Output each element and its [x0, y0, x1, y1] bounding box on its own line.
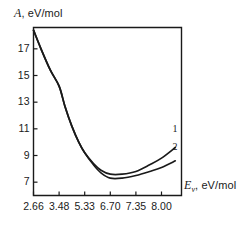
curve-label-2: 2 [173, 141, 178, 152]
y-axis-title: A, eV/mol [14, 6, 63, 21]
y-tick-label: 7 [8, 175, 30, 187]
x-axis-units: , eV/mol [195, 179, 236, 191]
x-tick-label: 2.66 [20, 200, 48, 212]
x-tick-label: 6.70 [96, 200, 124, 212]
y-axis-units: , eV/mol [21, 7, 62, 19]
x-tick-label: 7.35 [122, 200, 150, 212]
y-tick-label: 15 [8, 69, 30, 81]
y-tick-label: 11 [8, 122, 30, 134]
x-tick-label: 3.48 [45, 200, 73, 212]
x-tick-label: 5.33 [71, 200, 99, 212]
y-tick-label: 17 [8, 42, 30, 54]
chart-figure: A, eV/mol Ev, eV/mol 2.663.485.336.707.3… [0, 0, 247, 238]
y-tick-label: 9 [8, 149, 30, 161]
x-axis-title: Ev, eV/mol [184, 178, 236, 194]
curve-label-1: 1 [173, 123, 178, 134]
x-tick-label: 8.00 [148, 200, 176, 212]
y-tick-label: 13 [8, 95, 30, 107]
